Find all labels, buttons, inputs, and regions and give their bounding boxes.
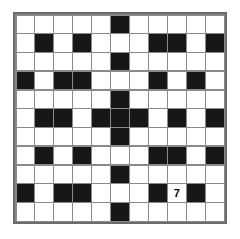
grid-cell-open[interactable] (149, 128, 166, 145)
grid-cell-open[interactable] (92, 72, 109, 89)
grid-cell-open[interactable] (17, 166, 34, 183)
crossword-grid[interactable]: 7 (13, 12, 227, 224)
grid-cell-block (206, 34, 223, 51)
grid-cell-open[interactable] (111, 72, 128, 89)
grid-cell-open[interactable] (168, 53, 185, 70)
grid-cell-open[interactable] (187, 109, 204, 126)
grid-cell-open[interactable] (35, 184, 52, 201)
grid-cell-open[interactable] (206, 184, 223, 201)
grid-cell-open[interactable] (168, 16, 185, 33)
grid-cell-open[interactable] (35, 203, 52, 220)
grid-cell-open[interactable] (73, 166, 90, 183)
grid-cell-open[interactable]: 7 (168, 184, 185, 201)
grid-cell-open[interactable] (92, 53, 109, 70)
grid-cell-open[interactable] (206, 166, 223, 183)
grid-cell-open[interactable] (168, 128, 185, 145)
grid-cell-block (54, 72, 71, 89)
grid-cell-open[interactable] (187, 91, 204, 108)
grid-cell-open[interactable] (187, 203, 204, 220)
grid-cell-open[interactable] (17, 91, 34, 108)
grid-cell-open[interactable] (206, 203, 223, 220)
grid-cell-open[interactable] (73, 128, 90, 145)
grid-cell-block (73, 72, 90, 89)
grid-cell-open[interactable] (111, 34, 128, 51)
grid-cell-block (149, 72, 166, 89)
grid-cell-open[interactable] (206, 91, 223, 108)
grid-cell-open[interactable] (35, 166, 52, 183)
grid-cell-open[interactable] (130, 147, 147, 164)
grid-cell-open[interactable] (92, 166, 109, 183)
grid-cell-open[interactable] (149, 203, 166, 220)
grid-cell-open[interactable] (92, 34, 109, 51)
grid-cell-block (168, 34, 185, 51)
grid-cell-block (149, 147, 166, 164)
grid-cell-open[interactable] (92, 128, 109, 145)
grid-cell-open[interactable] (130, 34, 147, 51)
grid-cell-open[interactable] (54, 166, 71, 183)
grid-cell-open[interactable] (92, 91, 109, 108)
grid-cell-open[interactable] (17, 109, 34, 126)
grid-cell-open[interactable] (92, 16, 109, 33)
grid-cell-open[interactable] (54, 147, 71, 164)
grid-cell-open[interactable] (130, 128, 147, 145)
crossword-puzzle: 7 (13, 12, 227, 224)
grid-cell-open[interactable] (149, 166, 166, 183)
grid-cell-open[interactable] (54, 53, 71, 70)
grid-cell-open[interactable] (187, 128, 204, 145)
grid-cell-open[interactable] (130, 53, 147, 70)
grid-cell-open[interactable] (130, 184, 147, 201)
grid-cell-open[interactable] (206, 16, 223, 33)
grid-cell-open[interactable] (149, 53, 166, 70)
grid-cell-open[interactable] (35, 72, 52, 89)
grid-cell-open[interactable] (17, 16, 34, 33)
grid-cell-open[interactable] (73, 109, 90, 126)
grid-cell-open[interactable] (149, 109, 166, 126)
grid-cell-open[interactable] (17, 34, 34, 51)
grid-cell-open[interactable] (168, 203, 185, 220)
grid-cell-open[interactable] (35, 53, 52, 70)
grid-cell-open[interactable] (73, 91, 90, 108)
grid-cell-open[interactable] (35, 128, 52, 145)
grid-cell-block (73, 34, 90, 51)
grid-cell-open[interactable] (130, 166, 147, 183)
grid-cell-open[interactable] (130, 16, 147, 33)
grid-cell-open[interactable] (206, 128, 223, 145)
grid-cell-open[interactable] (17, 128, 34, 145)
grid-cell-open[interactable] (35, 16, 52, 33)
grid-cell-open[interactable] (17, 203, 34, 220)
grid-cell-open[interactable] (187, 166, 204, 183)
grid-cell-open[interactable] (17, 53, 34, 70)
grid-cell-open[interactable] (73, 53, 90, 70)
grid-cell-open[interactable] (130, 91, 147, 108)
grid-cell-open[interactable] (17, 147, 34, 164)
grid-cell-open[interactable] (54, 34, 71, 51)
grid-cell-open[interactable] (168, 91, 185, 108)
grid-cell-open[interactable] (149, 91, 166, 108)
grid-cell-open[interactable] (54, 128, 71, 145)
grid-cell-open[interactable] (35, 91, 52, 108)
grid-cell-open[interactable] (92, 147, 109, 164)
grid-cell-open[interactable] (168, 166, 185, 183)
grid-cell-block (111, 16, 128, 33)
grid-cell-open[interactable] (111, 184, 128, 201)
grid-cell-open[interactable] (149, 16, 166, 33)
grid-cell-open[interactable] (206, 72, 223, 89)
grid-cell-open[interactable] (187, 16, 204, 33)
grid-cell-open[interactable] (73, 203, 90, 220)
grid-cell-open[interactable] (168, 72, 185, 89)
grid-cell-open[interactable] (187, 147, 204, 164)
grid-cell-open[interactable] (92, 203, 109, 220)
grid-cell-open[interactable] (92, 184, 109, 201)
grid-cell-open[interactable] (130, 72, 147, 89)
grid-cell-block (111, 53, 128, 70)
grid-cell-open[interactable] (206, 53, 223, 70)
grid-cell-open[interactable] (54, 16, 71, 33)
grid-cell-open[interactable] (54, 91, 71, 108)
grid-cell-open[interactable] (54, 203, 71, 220)
grid-cell-block (111, 203, 128, 220)
grid-cell-open[interactable] (187, 34, 204, 51)
grid-cell-open[interactable] (111, 147, 128, 164)
grid-cell-open[interactable] (130, 203, 147, 220)
grid-cell-open[interactable] (73, 16, 90, 33)
grid-cell-open[interactable] (187, 53, 204, 70)
